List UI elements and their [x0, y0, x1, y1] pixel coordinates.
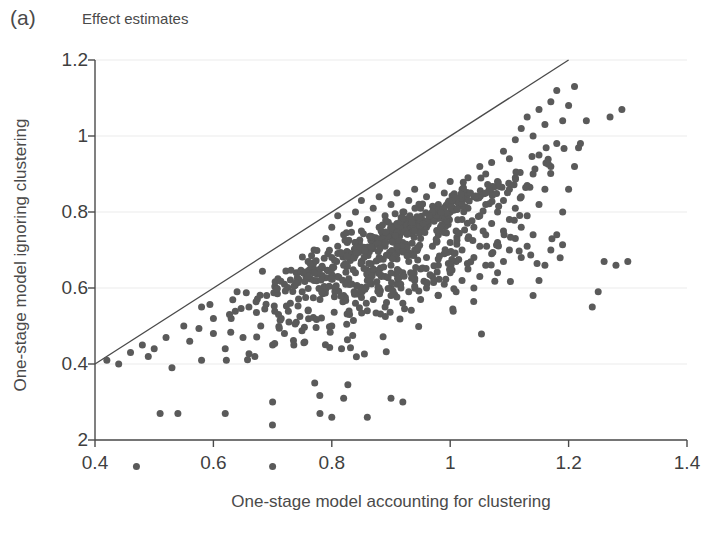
data-point — [423, 279, 430, 286]
data-point — [388, 201, 395, 208]
data-point — [271, 340, 278, 347]
data-point — [488, 198, 495, 205]
data-point — [375, 256, 382, 263]
data-point — [318, 276, 325, 283]
chart-title: Effect estimates — [82, 10, 188, 27]
data-point — [343, 321, 350, 328]
data-point — [400, 214, 407, 221]
data-point — [425, 212, 432, 219]
data-point — [269, 399, 276, 406]
data-point — [423, 193, 430, 200]
data-point — [466, 198, 473, 205]
data-point — [311, 380, 318, 387]
data-point — [263, 292, 270, 299]
data-point — [389, 288, 396, 295]
data-point — [345, 275, 352, 282]
y-tick-label: 0.4 — [28, 353, 88, 375]
data-point — [370, 296, 377, 303]
data-point — [345, 237, 352, 244]
data-point — [575, 144, 582, 151]
data-point — [210, 315, 217, 322]
data-point — [369, 272, 376, 279]
data-point — [322, 235, 329, 242]
data-point — [452, 194, 459, 201]
data-point — [506, 155, 513, 162]
data-point — [516, 212, 523, 219]
data-point — [454, 206, 461, 213]
data-point — [459, 247, 466, 254]
data-point — [400, 209, 407, 216]
x-axis-tick-labels: 0.40.60.811.21.4 — [0, 452, 716, 482]
data-point — [240, 334, 247, 341]
data-point — [245, 304, 252, 311]
data-point — [368, 243, 375, 250]
data-point — [331, 257, 338, 264]
data-point — [244, 356, 251, 363]
data-point — [285, 319, 292, 326]
data-point — [435, 292, 442, 299]
x-tick-label: 1 — [445, 452, 456, 474]
data-point — [295, 295, 302, 302]
data-point — [321, 255, 328, 262]
data-point — [433, 236, 440, 243]
data-point — [476, 163, 483, 170]
data-point — [416, 214, 423, 221]
data-point — [453, 237, 460, 244]
data-point — [431, 218, 438, 225]
data-point — [319, 263, 326, 270]
data-point — [441, 190, 448, 197]
data-point — [330, 264, 337, 271]
y-tick-label: 2 — [28, 429, 88, 451]
data-point — [198, 357, 205, 364]
data-point — [379, 221, 386, 228]
data-point — [517, 194, 524, 201]
x-tick-label: 1.4 — [674, 452, 700, 474]
data-point — [243, 289, 250, 296]
data-point — [316, 410, 323, 417]
data-point — [565, 102, 572, 109]
data-point — [353, 249, 360, 256]
data-point — [446, 266, 453, 273]
data-point — [571, 163, 578, 170]
data-point — [480, 228, 487, 235]
data-point — [277, 278, 284, 285]
data-point — [396, 316, 403, 323]
data-point — [547, 247, 554, 254]
data-point — [198, 304, 205, 311]
data-point — [347, 344, 354, 351]
data-point — [480, 207, 487, 214]
data-point — [427, 271, 434, 278]
data-point — [524, 212, 531, 219]
data-point — [361, 351, 368, 358]
data-point — [269, 422, 276, 429]
data-point — [559, 241, 566, 248]
data-point — [222, 410, 229, 417]
data-point — [366, 233, 373, 240]
data-point — [470, 298, 477, 305]
data-point — [396, 268, 403, 275]
data-point — [476, 273, 483, 280]
data-point — [507, 278, 514, 285]
data-point — [506, 247, 513, 254]
data-point — [456, 230, 463, 237]
data-point — [344, 381, 351, 388]
scatter-plot-canvas — [95, 60, 687, 440]
data-point — [488, 159, 495, 166]
data-point — [511, 217, 518, 224]
data-point — [541, 262, 548, 269]
data-point — [489, 192, 496, 199]
data-point — [382, 228, 389, 235]
data-point — [294, 302, 301, 309]
data-point — [360, 265, 367, 272]
data-point — [163, 334, 170, 341]
data-point — [285, 308, 292, 315]
data-point — [281, 330, 288, 337]
data-point — [430, 262, 437, 269]
data-point — [342, 260, 349, 267]
data-point — [259, 268, 266, 275]
data-point — [361, 254, 368, 261]
data-point — [186, 338, 193, 345]
data-point — [293, 279, 300, 286]
data-point — [518, 224, 525, 231]
data-point — [299, 254, 306, 261]
